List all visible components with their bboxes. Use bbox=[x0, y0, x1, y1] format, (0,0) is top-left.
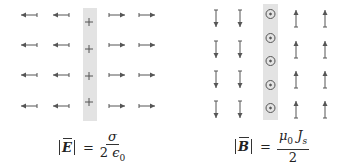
abs-bar-right bbox=[251, 139, 252, 154]
abs-bar-left bbox=[59, 140, 60, 155]
magnetic-field-formula: B = μ0 Js 2 bbox=[233, 128, 309, 164]
magnetic-field-panel: B = μ0 Js 2 bbox=[175, 0, 347, 164]
equals-sign: = bbox=[83, 140, 94, 155]
abs-bar-right bbox=[74, 140, 75, 155]
charged-sheet bbox=[83, 8, 97, 121]
numerator: μ0 Js bbox=[277, 128, 309, 150]
epsilon-subscript: 0 bbox=[120, 153, 126, 163]
epsilon-symbol: ϵ bbox=[112, 145, 119, 160]
b-vector-symbol: B bbox=[238, 139, 249, 154]
e-vector-symbol: E bbox=[62, 140, 72, 155]
denominator-coeff: 2 bbox=[100, 145, 108, 160]
denominator: 2 ϵ0 bbox=[100, 145, 125, 164]
j-subscript: s bbox=[302, 136, 307, 146]
mu-subscript: 0 bbox=[287, 136, 293, 146]
numerator: σ bbox=[106, 129, 119, 145]
electric-field-panel: E = σ 2 ϵ0 bbox=[0, 0, 175, 164]
electric-field-formula: E = σ 2 ϵ0 bbox=[57, 129, 125, 164]
abs-bar-left bbox=[235, 139, 236, 154]
equals-sign: = bbox=[260, 139, 271, 154]
fraction: μ0 Js 2 bbox=[277, 128, 309, 164]
denominator: 2 bbox=[289, 150, 297, 164]
fraction: σ 2 ϵ0 bbox=[100, 129, 125, 164]
